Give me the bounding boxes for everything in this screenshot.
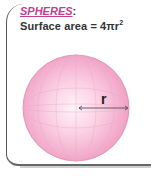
sphere-diagram: r (0, 0, 151, 176)
radius-label: r (101, 91, 107, 107)
card-shadow (20, 166, 151, 168)
